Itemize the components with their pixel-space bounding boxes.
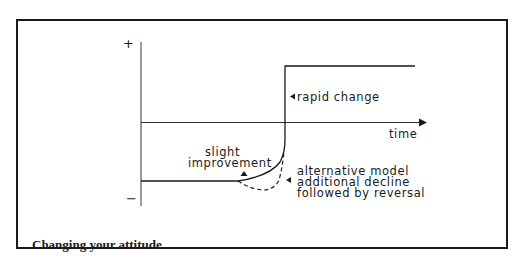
alternative-model-label-3: followed by reversal (297, 187, 425, 200)
alternative-pointer-icon (286, 177, 291, 183)
time-axis-label: time (389, 128, 417, 141)
attitude-change-diagram (0, 0, 526, 275)
time-axis-arrow-icon (419, 119, 427, 127)
figure-caption: Changing your attitude (32, 237, 162, 253)
slight-improvement-label-2: improvement (188, 157, 272, 170)
slight-improvement-pointer-icon (241, 171, 248, 176)
y-plus-label: + (123, 36, 134, 51)
y-minus-label: − (126, 191, 137, 206)
rapid-change-label: rapid change (297, 91, 380, 104)
rapid-change-pointer-icon (290, 94, 295, 100)
